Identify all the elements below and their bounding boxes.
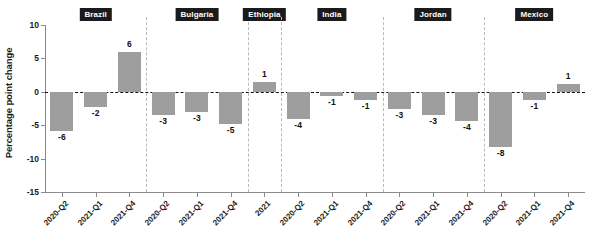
x-axis-line bbox=[45, 192, 585, 193]
bar-value-label: -1 bbox=[362, 102, 370, 111]
panel-title-brazil: Brazil bbox=[79, 8, 111, 21]
bar-value-label: 6 bbox=[127, 40, 132, 49]
y-tick-label: 10 bbox=[11, 21, 39, 29]
bar bbox=[455, 92, 478, 121]
bar-value-label: -3 bbox=[429, 117, 437, 126]
y-tick-mark bbox=[41, 159, 45, 160]
x-tick-label: 2020-Q2 bbox=[131, 199, 171, 229]
x-tick-mark bbox=[366, 193, 367, 197]
x-tick-mark bbox=[231, 193, 232, 197]
bar-value-label: -3 bbox=[396, 111, 404, 120]
panel-separator bbox=[146, 17, 147, 192]
x-tick-label: 2021-Q1 bbox=[64, 199, 104, 229]
bar-value-label: -2 bbox=[92, 109, 100, 118]
bar-value-label: -4 bbox=[463, 123, 471, 132]
x-tick-mark bbox=[96, 193, 97, 197]
panel-title-mexico: Mexico bbox=[516, 8, 554, 21]
x-tick-mark bbox=[568, 193, 569, 197]
x-tick-label: 2021-Q4 bbox=[435, 199, 475, 229]
x-tick-label: 2021-Q4 bbox=[536, 199, 576, 229]
bar bbox=[320, 92, 343, 96]
bar-value-label: -5 bbox=[227, 126, 235, 135]
y-axis-line bbox=[45, 25, 46, 192]
x-tick-label: 2020-Q2 bbox=[266, 199, 306, 229]
panel-title-ethiopia: Ethiopia bbox=[243, 8, 285, 21]
bar-value-label: -6 bbox=[58, 133, 66, 142]
bar bbox=[253, 82, 276, 91]
x-tick-mark bbox=[298, 193, 299, 197]
bar bbox=[388, 92, 411, 109]
x-tick-label: 2021-Q4 bbox=[334, 199, 374, 229]
x-tick-label: 2021-Q1 bbox=[401, 199, 441, 229]
bar bbox=[422, 92, 445, 115]
bar-value-label: 1 bbox=[566, 72, 571, 81]
bar bbox=[185, 92, 208, 112]
bar bbox=[84, 92, 107, 107]
bar bbox=[118, 52, 141, 92]
x-tick-mark bbox=[62, 193, 63, 197]
panel-separator bbox=[484, 17, 485, 192]
x-tick-label: 2020-Q2 bbox=[469, 199, 509, 229]
bar-value-label: -1 bbox=[328, 98, 336, 107]
x-tick-mark bbox=[534, 193, 535, 197]
y-tick-mark bbox=[41, 125, 45, 126]
bar bbox=[523, 92, 546, 100]
bar bbox=[354, 92, 377, 101]
x-tick-label: 2021-Q4 bbox=[199, 199, 239, 229]
x-tick-mark bbox=[433, 193, 434, 197]
bar bbox=[489, 92, 512, 147]
bar bbox=[287, 92, 310, 119]
bar bbox=[152, 92, 175, 115]
bar bbox=[219, 92, 242, 124]
panel-title-india: India bbox=[317, 8, 346, 21]
x-tick-mark bbox=[501, 193, 502, 197]
x-tick-label: 2021-Q1 bbox=[300, 199, 340, 229]
panel-separator bbox=[383, 17, 384, 192]
bar-value-label: -3 bbox=[159, 117, 167, 126]
x-tick-label: 2021-Q1 bbox=[165, 199, 205, 229]
y-tick-label: -10 bbox=[11, 155, 39, 163]
panel-separator bbox=[281, 17, 282, 192]
y-tick-label: 0 bbox=[11, 88, 39, 96]
y-tick-mark bbox=[41, 25, 45, 26]
bar-value-label: 1 bbox=[262, 70, 267, 79]
y-tick-label: -5 bbox=[11, 121, 39, 129]
bar-value-label: -3 bbox=[193, 114, 201, 123]
bar-value-label: -1 bbox=[531, 102, 539, 111]
x-tick-mark bbox=[129, 193, 130, 197]
x-tick-mark bbox=[332, 193, 333, 197]
bar bbox=[557, 84, 580, 92]
x-tick-mark bbox=[399, 193, 400, 197]
y-tick-label: -15 bbox=[11, 188, 39, 196]
x-tick-mark bbox=[197, 193, 198, 197]
bar-value-label: -4 bbox=[294, 121, 302, 130]
panel-title-bulgaria: Bulgaria bbox=[175, 8, 218, 21]
x-tick-label: 2020-Q2 bbox=[30, 199, 70, 229]
bar-value-label: -8 bbox=[497, 149, 505, 158]
bar bbox=[50, 92, 73, 131]
y-tick-mark bbox=[41, 58, 45, 59]
x-tick-mark bbox=[264, 193, 265, 197]
x-tick-mark bbox=[163, 193, 164, 197]
bar-chart: Percentage point change 1050-5-10-15Braz… bbox=[0, 0, 590, 229]
y-tick-mark bbox=[41, 192, 45, 193]
cropped-title-strip bbox=[0, 0, 590, 6]
y-tick-label: 5 bbox=[11, 54, 39, 62]
panel-title-jordan: Jordan bbox=[414, 8, 451, 21]
panel-separator bbox=[248, 17, 249, 192]
x-tick-mark bbox=[467, 193, 468, 197]
